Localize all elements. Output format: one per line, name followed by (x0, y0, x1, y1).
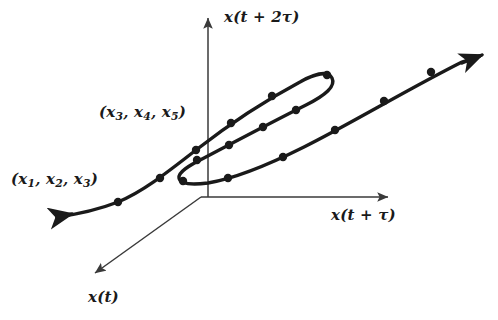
data-point (279, 153, 287, 161)
data-point (380, 97, 388, 105)
axis-label-horizontal: x(t + τ) (331, 208, 396, 223)
axes-group (95, 18, 388, 273)
axis-label-vertical: x(t + 2τ) (224, 10, 299, 25)
vector2-sep2: , (151, 103, 162, 121)
trajectory-group (57, 55, 482, 217)
vector1-sub2: 2 (55, 177, 63, 190)
data-point (331, 126, 339, 134)
data-point (224, 174, 232, 182)
trajectory-curve (57, 56, 480, 217)
vector2-sub2: 4 (143, 110, 151, 123)
axis-label-depth-text: x(t) (88, 288, 119, 306)
vector2-close: ) (179, 103, 186, 121)
vector1-close: ) (91, 170, 98, 188)
axis-label-vertical-suffix: ) (292, 8, 299, 26)
data-point (268, 92, 276, 100)
vector2-var3: x (162, 103, 171, 121)
delay-embedding-figure: x(t + 2τ) x(t + τ) x(t) (x1, x2, x3) (x3… (0, 0, 498, 320)
vector2-sub3: 5 (171, 110, 179, 123)
vector1-sep2: , (63, 170, 74, 188)
axis-label-vertical-prefix: x(t + 2 (224, 8, 282, 26)
data-point (225, 141, 233, 149)
trajectory-data-points (114, 68, 435, 206)
data-point (193, 156, 201, 164)
axis-label-horizontal-prefix: x(t + (331, 206, 378, 224)
data-point (292, 106, 300, 114)
vector1-sep1: , (35, 170, 46, 188)
figure-canvas (0, 0, 498, 320)
data-point (114, 198, 122, 206)
axis-label-horizontal-tau: τ (378, 206, 388, 224)
trajectory-end-arrow (462, 55, 482, 63)
axis-label-horizontal-suffix: ) (388, 206, 395, 224)
axis-depth-line (95, 197, 201, 273)
data-point (427, 68, 435, 76)
vector1-var2: x (46, 170, 55, 188)
vector2-var2: x (134, 103, 143, 121)
data-point (192, 146, 200, 154)
vector1-sub3: 3 (83, 177, 91, 190)
axis-label-depth: x(t) (88, 290, 119, 305)
data-point (156, 174, 164, 182)
data-point (259, 123, 267, 131)
data-point (227, 119, 235, 127)
vector1-var3: x (74, 170, 83, 188)
data-point (323, 71, 331, 79)
axis-label-vertical-tau: τ (282, 8, 292, 26)
data-point (179, 177, 187, 185)
vector2-sep1: , (123, 103, 134, 121)
embedding-vector-label-2: (x3, x4, x5) (99, 105, 186, 123)
embedding-vector-label-1: (x1, x2, x3) (11, 172, 98, 190)
